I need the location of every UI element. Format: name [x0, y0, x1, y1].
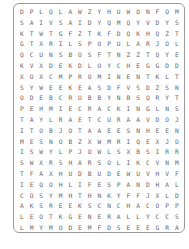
- grid-cell[interactable]: T: [172, 72, 182, 83]
- grid-cell[interactable]: S: [27, 147, 37, 158]
- grid-cell[interactable]: Z: [133, 50, 143, 61]
- grid-cell[interactable]: M: [114, 18, 124, 29]
- grid-cell[interactable]: S: [56, 50, 66, 61]
- grid-cell[interactable]: M: [172, 158, 182, 169]
- grid-cell[interactable]: R: [46, 158, 56, 169]
- grid-cell[interactable]: U: [75, 93, 85, 104]
- grid-cell[interactable]: Y: [95, 18, 105, 29]
- grid-cell[interactable]: N: [172, 83, 182, 94]
- grid-cell[interactable]: L: [56, 7, 66, 18]
- grid-cell[interactable]: E: [27, 180, 37, 191]
- grid-cell[interactable]: J: [56, 126, 66, 137]
- grid-cell[interactable]: B: [124, 93, 134, 104]
- grid-cell[interactable]: X: [124, 147, 134, 158]
- grid-cell[interactable]: Q: [124, 29, 134, 40]
- grid-cell[interactable]: S: [172, 104, 182, 115]
- grid-cell[interactable]: D: [143, 83, 153, 94]
- grid-cell[interactable]: P: [27, 7, 37, 18]
- grid-cell[interactable]: M: [46, 104, 56, 115]
- grid-cell[interactable]: D: [162, 61, 172, 72]
- grid-cell[interactable]: N: [133, 180, 143, 191]
- grid-cell[interactable]: V: [143, 115, 153, 126]
- grid-cell[interactable]: F: [153, 7, 163, 18]
- grid-cell[interactable]: C: [114, 201, 124, 212]
- grid-cell[interactable]: E: [56, 61, 66, 72]
- grid-cell[interactable]: E: [143, 137, 153, 148]
- grid-cell[interactable]: J: [153, 39, 163, 50]
- grid-cell[interactable]: Y: [104, 93, 114, 104]
- grid-cell[interactable]: X: [36, 61, 46, 72]
- grid-cell[interactable]: Q: [153, 29, 163, 40]
- grid-cell[interactable]: W: [124, 169, 134, 180]
- grid-cell[interactable]: E: [114, 126, 124, 137]
- grid-cell[interactable]: D: [46, 61, 56, 72]
- grid-cell[interactable]: D: [114, 29, 124, 40]
- grid-cell[interactable]: P: [104, 39, 114, 50]
- grid-cell[interactable]: A: [133, 39, 143, 50]
- grid-cell[interactable]: S: [95, 83, 105, 94]
- grid-cell[interactable]: K: [75, 201, 85, 212]
- grid-cell[interactable]: E: [27, 212, 37, 223]
- grid-cell[interactable]: S: [172, 212, 182, 223]
- grid-cell[interactable]: D: [104, 169, 114, 180]
- grid-cell[interactable]: D: [104, 83, 114, 94]
- grid-cell[interactable]: U: [104, 115, 114, 126]
- grid-cell[interactable]: C: [143, 158, 153, 169]
- grid-cell[interactable]: T: [17, 115, 27, 126]
- grid-cell[interactable]: A: [124, 115, 134, 126]
- grid-cell[interactable]: G: [65, 212, 75, 223]
- grid-cell[interactable]: E: [75, 212, 85, 223]
- grid-cell[interactable]: M: [27, 223, 37, 234]
- grid-cell[interactable]: D: [153, 115, 163, 126]
- grid-cell[interactable]: E: [65, 201, 75, 212]
- grid-cell[interactable]: H: [36, 104, 46, 115]
- grid-cell[interactable]: I: [56, 39, 66, 50]
- grid-cell[interactable]: E: [133, 61, 143, 72]
- grid-cell[interactable]: K: [65, 83, 75, 94]
- grid-cell[interactable]: I: [56, 104, 66, 115]
- grid-cell[interactable]: B: [65, 137, 75, 148]
- grid-cell[interactable]: C: [104, 104, 114, 115]
- grid-cell[interactable]: X: [36, 72, 46, 83]
- grid-cell[interactable]: E: [124, 223, 134, 234]
- grid-cell[interactable]: D: [75, 61, 85, 72]
- grid-cell[interactable]: T: [46, 29, 56, 40]
- grid-cell[interactable]: Z: [75, 137, 85, 148]
- grid-cell[interactable]: L: [65, 180, 75, 191]
- grid-cell[interactable]: A: [27, 115, 37, 126]
- grid-cell[interactable]: J: [75, 147, 85, 158]
- grid-cell[interactable]: B: [133, 147, 143, 158]
- grid-cell[interactable]: O: [104, 158, 114, 169]
- grid-cell[interactable]: N: [133, 126, 143, 137]
- grid-cell[interactable]: T: [46, 212, 56, 223]
- grid-cell[interactable]: X: [17, 72, 27, 83]
- grid-cell[interactable]: R: [114, 115, 124, 126]
- grid-cell[interactable]: E: [143, 223, 153, 234]
- grid-cell[interactable]: S: [75, 39, 85, 50]
- grid-cell[interactable]: G: [153, 223, 163, 234]
- grid-cell[interactable]: Z: [124, 50, 134, 61]
- grid-cell[interactable]: C: [143, 201, 153, 212]
- grid-cell[interactable]: L: [85, 61, 95, 72]
- grid-cell[interactable]: F: [27, 169, 37, 180]
- grid-cell[interactable]: S: [17, 83, 27, 94]
- grid-cell[interactable]: L: [17, 223, 27, 234]
- grid-cell[interactable]: O: [133, 7, 143, 18]
- grid-cell[interactable]: S: [56, 158, 66, 169]
- grid-cell[interactable]: X: [153, 137, 163, 148]
- grid-cell[interactable]: D: [143, 180, 153, 191]
- grid-cell[interactable]: O: [17, 93, 27, 104]
- grid-cell[interactable]: U: [114, 39, 124, 50]
- grid-cell[interactable]: T: [27, 39, 37, 50]
- grid-cell[interactable]: I: [75, 180, 85, 191]
- grid-cell[interactable]: E: [114, 169, 124, 180]
- grid-cell[interactable]: Q: [36, 180, 46, 191]
- grid-cell[interactable]: S: [133, 93, 143, 104]
- grid-cell[interactable]: E: [46, 83, 56, 94]
- grid-cell[interactable]: M: [104, 137, 114, 148]
- grid-cell[interactable]: A: [65, 7, 75, 18]
- grid-cell[interactable]: F: [104, 29, 114, 40]
- grid-cell[interactable]: S: [17, 18, 27, 29]
- grid-cell[interactable]: O: [162, 39, 172, 50]
- grid-cell[interactable]: X: [85, 137, 95, 148]
